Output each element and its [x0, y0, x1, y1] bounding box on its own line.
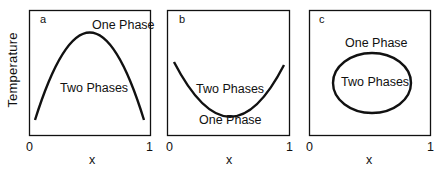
- panel-a-x-tick-0: 0: [26, 140, 33, 154]
- panel-b-lower-region-label: One Phase: [199, 113, 262, 127]
- panel-b-x-tick-1: 1: [286, 140, 293, 154]
- panel-a-x-axis-label: x: [89, 153, 95, 167]
- panel-a-lower-region-label: Two Phases: [60, 81, 128, 95]
- panel-c-upper-region-label: One Phase: [345, 36, 408, 50]
- panel-b-upper-region-label: Two Phases: [196, 82, 264, 96]
- panel-a-coexistence-curve: [35, 33, 144, 121]
- phase-diagram-figure: Temperature a One Phase Two Phases 0 1 x…: [0, 0, 442, 176]
- panel-c-x-tick-0: 0: [306, 140, 313, 154]
- panel-b-label: b: [179, 13, 185, 25]
- panel-a-x-tick-1: 1: [146, 140, 153, 154]
- panel-c-lower-region-label: Two Phases: [341, 75, 409, 89]
- panel-b-x-axis-label: x: [226, 153, 232, 167]
- panel-a-label: a: [40, 13, 46, 25]
- panel-c-label: c: [319, 13, 325, 25]
- panel-c-x-axis-label: x: [366, 153, 372, 167]
- y-axis-label: Temperature: [5, 25, 21, 115]
- panel-c-x-tick-1: 1: [427, 140, 434, 154]
- panel-b-x-tick-0: 0: [166, 140, 173, 154]
- panel-c-frame: [310, 11, 431, 136]
- panel-a-upper-region-label: One Phase: [92, 18, 155, 32]
